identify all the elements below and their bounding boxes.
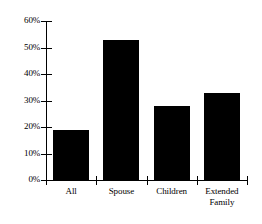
x-axis-category-label-line: All xyxy=(46,186,96,197)
y-axis-tick-label: 40% xyxy=(0,69,40,78)
bar xyxy=(103,40,139,180)
x-axis-tick xyxy=(147,176,148,185)
x-axis-category-label-line: Children xyxy=(147,186,197,197)
y-axis-tick-label: 0% xyxy=(0,175,40,184)
x-axis-category-label-line: Family xyxy=(197,197,247,208)
y-axis-tick xyxy=(41,21,52,22)
y-axis-tick-label: 10% xyxy=(0,149,40,158)
y-axis-tick xyxy=(41,101,52,102)
y-axis-tick-label-text: 30% xyxy=(4,96,40,105)
x-axis-tick xyxy=(96,176,97,185)
bar xyxy=(53,130,89,180)
bar xyxy=(154,106,190,180)
y-axis-tick xyxy=(41,154,52,155)
x-axis-category-label: ExtendedFamily xyxy=(197,186,247,208)
x-axis-tick-origin xyxy=(46,176,47,185)
x-axis-tick xyxy=(247,176,248,185)
x-axis-tick xyxy=(197,176,198,185)
y-axis-tick-label-text: 60% xyxy=(4,16,40,25)
x-axis-category-label: Spouse xyxy=(96,186,146,197)
y-axis-tick-label-text: 10% xyxy=(4,149,40,158)
y-axis-tick xyxy=(41,48,52,49)
y-axis-tick-label-text: 0% xyxy=(4,175,40,184)
y-axis-tick-label: 50% xyxy=(0,43,40,52)
x-axis-category-label: All xyxy=(46,186,96,197)
y-axis-tick-label-text: 50% xyxy=(4,43,40,52)
y-axis-tick xyxy=(41,74,52,75)
y-axis-tick-label: 20% xyxy=(0,122,40,131)
bar xyxy=(204,93,240,180)
x-axis-category-label-line: Extended xyxy=(197,186,247,197)
y-axis-tick-label: 60% xyxy=(0,16,40,25)
bar-chart: 0%10%20%30%40%50%60% AllSpouseChildrenEx… xyxy=(0,0,262,224)
x-axis-category-label-line: Spouse xyxy=(96,186,146,197)
y-axis-tick-label-text: 40% xyxy=(4,69,40,78)
y-axis-tick-label-text: 20% xyxy=(4,122,40,131)
y-axis-tick xyxy=(41,127,52,128)
x-axis-category-label: Children xyxy=(147,186,197,197)
y-axis-tick-label: 30% xyxy=(0,96,40,105)
